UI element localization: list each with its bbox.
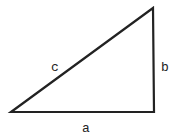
side-label-b: b — [161, 60, 169, 75]
side-label-c: c — [51, 60, 59, 75]
triangle-shape — [11, 8, 154, 112]
right-triangle-diagram: c b a — [0, 0, 176, 139]
side-label-a: a — [82, 121, 90, 136]
